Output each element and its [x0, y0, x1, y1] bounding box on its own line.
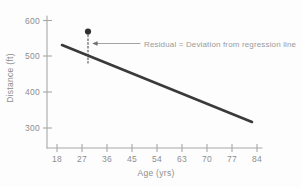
data-point-observed — [85, 28, 91, 34]
y-tick-label-400: 400 — [25, 87, 40, 97]
y-tick-label-300: 300 — [25, 123, 40, 133]
x-tick-label-27: 27 — [77, 154, 87, 164]
residual-annotation-arrow — [92, 41, 140, 46]
x-tick-label-77: 77 — [227, 154, 237, 164]
y-tick-label-500: 500 — [25, 51, 40, 61]
x-tick-label-18: 18 — [52, 154, 62, 164]
y-tick-label-600: 600 — [25, 16, 40, 26]
x-tick-label-63: 63 — [177, 154, 187, 164]
x-tick-label-70: 70 — [202, 154, 212, 164]
chart-container: 600 500 400 300 18 27 36 45 54 63 70 77 … — [0, 0, 302, 187]
x-tick-label-36: 36 — [102, 154, 112, 164]
x-axis-title: Age (yrs) — [137, 168, 174, 178]
x-tick-label-45: 45 — [127, 154, 137, 164]
y-axis-title: Distance (ft) — [5, 53, 15, 103]
regression-line — [62, 45, 252, 122]
x-tick-label-84: 84 — [252, 154, 262, 164]
x-tick-label-54: 54 — [152, 154, 162, 164]
residual-annotation-label: Residual = Deviation from regression lin… — [144, 40, 297, 49]
regression-residual-chart: 600 500 400 300 18 27 36 45 54 63 70 77 … — [0, 0, 302, 187]
